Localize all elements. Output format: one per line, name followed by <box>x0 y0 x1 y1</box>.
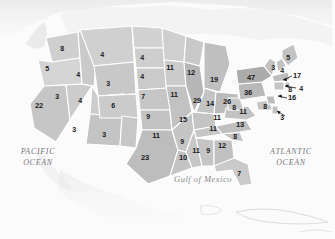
state-value-or: 5 <box>45 65 49 72</box>
state-value-mi: 19 <box>210 76 218 84</box>
state-value-de: 3 <box>280 114 284 121</box>
state-value-ca: 22 <box>35 102 43 110</box>
water-label-line2: OCEAN <box>270 158 312 169</box>
state-value-wi: 12 <box>187 69 195 77</box>
state-value-al: 9 <box>206 147 210 154</box>
state-value-nm: 3 <box>102 131 106 138</box>
state-value-wa: 8 <box>60 45 64 52</box>
state-value-ms: 11 <box>192 147 200 155</box>
state-value-sc: 8 <box>233 133 237 140</box>
state-value-wy: 3 <box>106 80 110 87</box>
state-value-tx: 23 <box>141 154 149 162</box>
state-value-oh: 26 <box>223 98 231 106</box>
state-value-in: 14 <box>206 100 214 108</box>
state-value-az: 3 <box>72 126 76 133</box>
state-value-ct: 8 <box>288 86 292 93</box>
state-value-sd: 4 <box>140 73 144 80</box>
state-value-ga: 12 <box>218 142 226 150</box>
state-polygons <box>0 0 335 239</box>
state-value-ny: 47 <box>247 74 255 82</box>
state-value-mt: 4 <box>100 51 104 58</box>
state-value-md: 8 <box>263 103 267 110</box>
state-value-wv: 8 <box>232 104 236 111</box>
state-value-id: 4 <box>76 71 80 78</box>
state-value-nd: 4 <box>140 54 144 61</box>
state-value-va: 11 <box>239 108 247 116</box>
state-value-tn: 11 <box>209 125 217 133</box>
state-value-la: 10 <box>179 154 187 162</box>
state-value-me: 5 <box>286 54 290 61</box>
state-value-ne: 7 <box>141 93 145 100</box>
us-electoral-map: 8522344343634479112311111591012291914261… <box>0 0 335 239</box>
state-value-ks: 9 <box>146 113 150 120</box>
water-label-line1: PACIFIC <box>21 147 56 156</box>
state-value-ut: 4 <box>78 97 82 104</box>
water-label-line1: Gulf of Mexico <box>174 174 232 184</box>
state-value-ky: 11 <box>213 114 221 122</box>
water-label-gulf: Gulf of Mexico <box>174 174 232 185</box>
state-value-nc: 13 <box>236 121 244 129</box>
state-value-ok: 11 <box>152 132 160 140</box>
state-value-mo: 15 <box>179 116 187 124</box>
state-value-ar: 9 <box>180 138 184 145</box>
water-label-pacific: PACIFICOCEAN <box>21 147 56 169</box>
water-label-atlantic: ATLANTICOCEAN <box>270 147 312 169</box>
state-value-nh: 4 <box>280 67 284 74</box>
state-value-nv: 3 <box>55 93 59 100</box>
state-value-ia: 11 <box>170 91 178 99</box>
state-value-co: 6 <box>111 102 115 109</box>
state-value-fl: 7 <box>237 170 241 177</box>
state-value-ma: 17 <box>293 72 301 80</box>
water-label-line2: OCEAN <box>21 158 56 169</box>
state-value-vt: 3 <box>271 64 275 71</box>
state-value-pa: 36 <box>244 89 252 97</box>
water-label-line1: ATLANTIC <box>270 147 312 156</box>
state-value-mn: 11 <box>166 64 174 72</box>
state-value-ri: 4 <box>299 85 303 92</box>
state-value-il: 29 <box>193 97 201 105</box>
state-value-nj: 16 <box>288 94 296 102</box>
